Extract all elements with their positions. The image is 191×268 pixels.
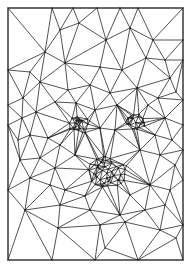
mesh-edge [76, 103, 77, 117]
mesh-edge [160, 205, 165, 230]
mesh-edge [97, 177, 100, 180]
mesh-edge [165, 118, 183, 125]
mesh-edge [172, 125, 183, 140]
mesh-edge [65, 181, 92, 190]
mesh-edge [108, 186, 120, 215]
mesh-edge [30, 135, 40, 158]
mesh-edge [90, 210, 120, 215]
mesh-edge [145, 185, 150, 210]
mesh-edge [58, 205, 60, 228]
mesh-edge [111, 183, 118, 186]
mesh-edge [68, 90, 76, 103]
mesh-edge [170, 190, 183, 225]
mesh-edge [155, 135, 160, 155]
mesh-edge [18, 118, 22, 140]
mesh-edge [75, 133, 83, 155]
mesh-edge [165, 40, 183, 60]
mesh-edge [105, 130, 115, 157]
mesh-edge [30, 178, 50, 185]
mesh-edge [45, 52, 65, 63]
mesh-edge [79, 8, 97, 23]
mesh-edge [105, 222, 125, 248]
mesh-edge [60, 8, 73, 30]
mesh-edge [175, 150, 183, 165]
mesh-edge [40, 63, 65, 82]
mesh-edge [110, 88, 137, 93]
mesh-edge [137, 129, 155, 135]
mesh-edge [158, 98, 183, 100]
mesh-edge [23, 98, 36, 112]
mesh-edge [125, 222, 138, 260]
mesh-edge [120, 195, 130, 215]
mesh-edge [36, 82, 40, 112]
mesh-edge [110, 93, 117, 105]
mesh-edge [36, 112, 48, 138]
mesh-edge [145, 205, 165, 210]
mesh-edge [140, 135, 155, 150]
mesh-edge [143, 105, 148, 119]
mesh-edge [23, 72, 30, 98]
mesh-edge [140, 150, 160, 155]
mesh-edge [121, 180, 124, 183]
mesh-edge [160, 155, 175, 165]
mesh-edge [102, 187, 120, 215]
mesh-edge [25, 178, 30, 210]
mesh-edge [60, 23, 79, 30]
mesh-edge [25, 185, 50, 210]
mesh-edge [8, 118, 22, 125]
mesh-edge [105, 167, 109, 169]
face-mesh-figure [0, 0, 191, 268]
mesh-edge [48, 138, 60, 145]
mesh-edge [130, 8, 138, 28]
mesh-edge [113, 176, 118, 180]
mesh-edge [155, 118, 165, 135]
mesh-edge [22, 98, 23, 118]
mesh-edge [22, 118, 30, 135]
mesh-edge [160, 230, 176, 238]
mesh-edge [92, 181, 95, 184]
mesh-edge [110, 130, 115, 159]
mesh-edge [165, 118, 172, 140]
mesh-edge [148, 98, 158, 105]
mesh-edge [58, 228, 95, 260]
mesh-edge [36, 112, 70, 123]
mesh-edge [118, 168, 120, 175]
mesh-edge [73, 8, 79, 23]
mesh-edge [50, 168, 55, 185]
mesh-edge [133, 118, 136, 122]
mesh-edge [114, 175, 121, 176]
mesh-edge [30, 112, 36, 135]
mesh-edge [8, 8, 45, 52]
mesh-edge [134, 88, 137, 115]
mesh-edge [40, 82, 55, 102]
mesh-edge [146, 40, 153, 58]
mesh-edge [104, 183, 107, 185]
mesh-edges [8, 8, 183, 260]
mesh-edge [74, 129, 75, 155]
mesh-edge [23, 82, 40, 98]
mesh-edge [108, 169, 111, 171]
mesh-edge [58, 225, 100, 228]
mesh-edge [30, 72, 40, 82]
mesh-edge [117, 88, 137, 105]
mesh-edge [176, 238, 183, 260]
mesh-edge [137, 88, 139, 114]
mesh-edge [125, 166, 126, 170]
mesh-edge [8, 160, 20, 190]
mesh-edge [52, 228, 58, 260]
mesh-edge [104, 163, 105, 167]
mesh-edge [20, 160, 30, 178]
mesh-edge [103, 160, 106, 161]
mesh-edge [8, 105, 22, 118]
mesh-edge [45, 8, 52, 52]
mesh-edge [40, 52, 45, 82]
mesh-edge [102, 170, 107, 173]
mesh-edge [100, 225, 105, 248]
mesh-edge [138, 230, 160, 260]
mesh-edge [146, 58, 170, 78]
mesh-edge [58, 210, 90, 228]
mesh-edge [30, 52, 45, 72]
mesh-edge [8, 178, 30, 190]
mesh-edge [65, 63, 90, 85]
mesh-edge [72, 103, 76, 118]
